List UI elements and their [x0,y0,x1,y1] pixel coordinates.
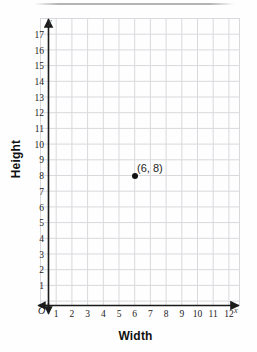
coordinate-plane-figure: (6, 8) 17 16 15 14 13 12 11 10 9 8 7 6 5… [0,0,257,352]
origin-label: O [38,305,45,316]
x-axis-symbol: x [234,306,238,315]
x-axis-tick-labels: 1 2 3 4 5 6 7 8 9 10 11 12 [0,0,257,352]
y-axis-symbol: y [48,17,52,26]
y-axis-title: Height [9,123,23,195]
x-axis-title: Width [0,329,257,343]
